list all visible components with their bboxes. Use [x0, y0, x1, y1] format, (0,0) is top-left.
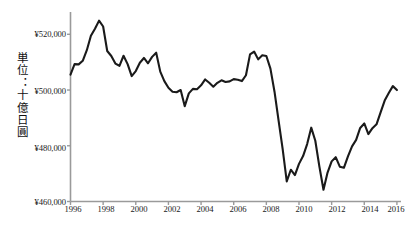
tick-marks	[67, 34, 397, 205]
data-line-real-gdp	[71, 21, 397, 190]
chart-figure: 単位：十億日圓 ¥520,000 ¥500,000 ¥480,000 ¥460,…	[0, 0, 409, 236]
plot-area	[0, 0, 409, 236]
